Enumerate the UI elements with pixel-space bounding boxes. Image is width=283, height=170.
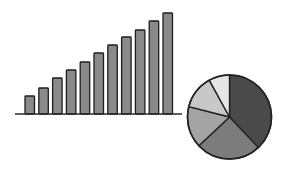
- bar-chart: [25, 13, 173, 114]
- bar-10: [149, 21, 159, 114]
- chart-svg: [0, 0, 283, 170]
- pie-chart: [188, 75, 272, 159]
- bar-4: [66, 70, 76, 114]
- bar-6: [94, 53, 104, 114]
- bar-3: [53, 78, 63, 114]
- chart-canvas: [0, 0, 283, 170]
- bar-11: [163, 13, 173, 114]
- bar-1: [25, 96, 35, 114]
- bar-7: [108, 45, 118, 114]
- bar-2: [39, 88, 49, 114]
- bar-8: [122, 37, 132, 114]
- bar-5: [80, 62, 90, 114]
- bar-9: [135, 30, 145, 114]
